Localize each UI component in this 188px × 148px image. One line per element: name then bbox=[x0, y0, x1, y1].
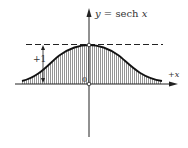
origin-label: 0 bbox=[82, 75, 87, 84]
height-label: +1 bbox=[33, 54, 46, 64]
function-label: y = sech x bbox=[94, 8, 148, 19]
x-axis-arrow-icon bbox=[169, 82, 178, 87]
max-point-marker bbox=[87, 43, 91, 47]
y-axis-arrow-icon bbox=[87, 8, 92, 17]
origin-marker bbox=[87, 82, 91, 86]
arrow-up-icon bbox=[41, 45, 45, 50]
sech-graph: y = sech x +x 0 +1 bbox=[0, 0, 188, 148]
x-axis-label: +x bbox=[168, 70, 180, 79]
